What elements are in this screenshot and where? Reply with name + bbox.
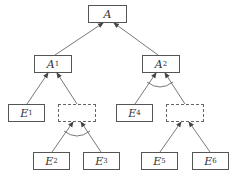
node-e6-label: E [204,155,212,168]
edge-a1-a [55,23,103,55]
node-a1-subscript: 1 [55,60,59,68]
edge-e4-a2 [135,73,156,104]
node-e5: E5 [141,152,178,170]
node-e6: E6 [192,152,229,170]
node-e3-label: E [95,155,103,168]
node-e3-subscript: 3 [103,157,107,165]
node-e4-subscript: 4 [136,109,140,117]
node-e6-subscript: 6 [212,157,216,165]
node-e3: E3 [83,152,120,170]
node-e5-subscript: 5 [161,157,165,165]
edge-e3-d1 [81,122,101,152]
node-intermediate-right [166,104,204,122]
node-e4-label: E [128,107,136,120]
edge-e1-a1 [27,73,48,104]
node-e1-label: E [20,107,28,120]
node-a-label: A [104,8,112,21]
node-a1: A1 [34,55,72,73]
node-e4: E4 [116,104,153,122]
node-a2-subscript: 2 [163,60,167,68]
node-a2-label: A [155,58,163,71]
node-a2: A2 [142,55,180,73]
node-a1-label: A [47,58,55,71]
edge-a2-a [114,23,158,55]
node-intermediate-left [58,104,96,122]
and-gate-arc-a2 [147,82,173,87]
edge-e5-d2 [160,122,181,152]
node-e2: E2 [33,152,70,170]
node-a: A [88,5,127,23]
edge-e6-d2 [189,122,210,152]
edge-d2-a2 [165,73,185,104]
and-gate-arc-d1 [64,131,90,136]
node-e2-subscript: 2 [53,157,57,165]
node-e5-label: E [153,155,161,168]
edge-e2-d1 [52,122,73,152]
node-e1-subscript: 1 [28,109,32,117]
node-e1: E1 [8,104,45,122]
node-e2-label: E [45,155,53,168]
edge-d1-a1 [57,73,77,104]
